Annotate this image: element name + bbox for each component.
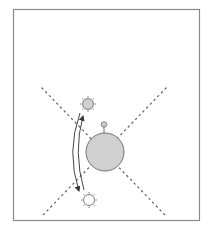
frame-border bbox=[14, 10, 200, 221]
sun-lower-icon bbox=[81, 192, 97, 208]
diagram-canvas bbox=[0, 0, 208, 235]
sun-upper-icon bbox=[80, 96, 96, 112]
planet bbox=[86, 133, 124, 171]
